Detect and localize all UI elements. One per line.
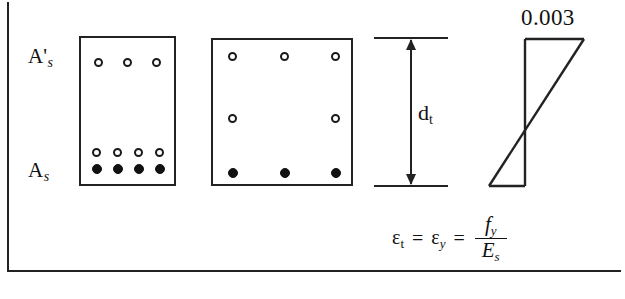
epsilon-symbol: ε <box>431 226 439 248</box>
equation-epsilon-y: εy <box>431 226 445 252</box>
equation-equals-2: = <box>452 227 467 250</box>
fraction-numerator: fy <box>478 213 504 238</box>
denominator-symbol: E <box>482 238 495 262</box>
reinforced-concrete-strain-figure: A's As dt <box>0 0 625 299</box>
equation-epsilon-t: εt <box>392 226 404 252</box>
strain-equation: εt = εy = fy Es <box>392 213 507 265</box>
strain-profile-line <box>489 39 584 186</box>
epsilon-y-subscript: y <box>440 236 446 251</box>
numerator-subscript: y <box>491 223 497 238</box>
equation-fraction: fy Es <box>475 213 507 265</box>
fraction-denominator: Es <box>475 239 507 264</box>
equation-equals-1: = <box>410 227 425 250</box>
epsilon-t-subscript: t <box>400 236 404 251</box>
strain-diagram <box>0 0 625 299</box>
denominator-subscript: s <box>495 249 500 264</box>
